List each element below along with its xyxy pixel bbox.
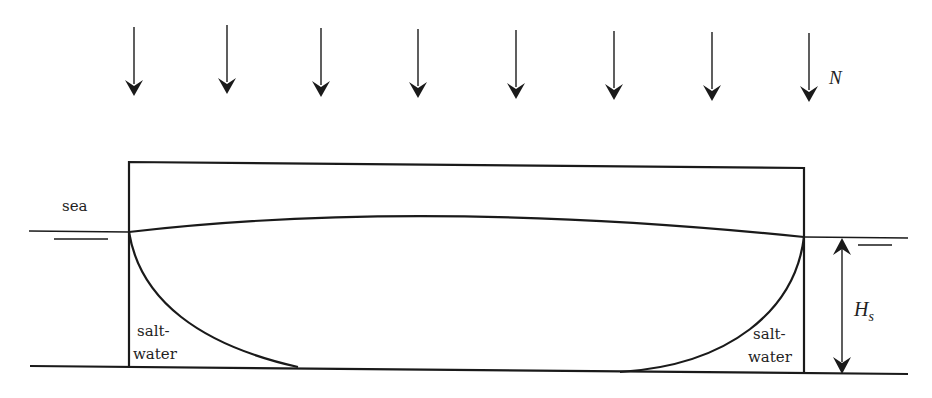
- down-arrow-icon: [800, 33, 818, 102]
- down-arrow-icon: [312, 28, 330, 97]
- diagram-canvas: N Hs sea salt- water salt- water: [0, 0, 932, 398]
- down-arrow-icon: [409, 29, 427, 98]
- left-saltwater-label-line1: salt-: [137, 322, 170, 340]
- island-outline: [129, 162, 804, 374]
- right-saltwater-label-line1: salt-: [753, 325, 786, 343]
- sea-level-left: [29, 231, 129, 232]
- down-arrow-icon: [218, 25, 236, 94]
- down-arrow-icon: [507, 30, 525, 99]
- sea-label: sea: [62, 197, 88, 215]
- load-arrows: [125, 25, 818, 102]
- down-arrow-icon: [703, 32, 721, 101]
- load-label: N: [828, 67, 843, 88]
- height-dimension-arrow: [833, 238, 851, 374]
- down-arrow-icon: [125, 27, 143, 96]
- left-saltwater-label-line2: water: [133, 345, 178, 363]
- right-saltwater-label-line2: water: [748, 348, 793, 366]
- down-arrow-icon: [605, 31, 623, 100]
- water-table-curve: [129, 216, 804, 237]
- sea-level-right: [804, 237, 908, 238]
- bottom-boundary: [30, 366, 908, 374]
- height-label: Hs: [853, 298, 874, 324]
